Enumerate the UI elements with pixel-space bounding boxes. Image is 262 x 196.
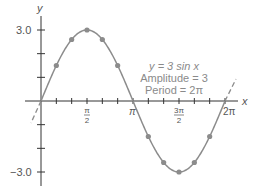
x-tick-label-pi-half: π 2 xyxy=(84,106,90,125)
annotation-box: y = 3 sin x Amplitude = 3 Period = 2π xyxy=(140,60,208,96)
data-point xyxy=(207,134,212,139)
axes xyxy=(25,16,238,186)
data-point xyxy=(100,37,105,42)
sine-chart: y x 3.0 −3.0 π 2 π 3π 2 2π y = 3 sin x A… xyxy=(0,0,262,196)
annotation-amplitude: Amplitude = 3 xyxy=(140,72,208,84)
data-point xyxy=(176,169,181,174)
y-tick-label-top: 3.0 xyxy=(16,24,31,36)
data-point xyxy=(54,63,59,68)
right-extension xyxy=(225,79,236,101)
annotation-equation: y = 3 sin x xyxy=(148,60,199,72)
x-axis-label: x xyxy=(241,95,248,107)
x-tick-label-three-pi-half: 3π 2 xyxy=(174,106,184,125)
x-tick-label-pi: π xyxy=(129,106,136,117)
data-point xyxy=(192,160,197,165)
data-point xyxy=(115,63,120,68)
left-extension xyxy=(31,101,41,123)
y-tick-label-bottom: −3.0 xyxy=(10,166,32,178)
fraction-denominator: 2 xyxy=(85,116,90,125)
data-point xyxy=(69,37,74,42)
data-point xyxy=(161,160,166,165)
y-axis-label: y xyxy=(36,2,44,14)
x-tick-label-two-pi: 2π xyxy=(223,106,236,117)
annotation-period: Period = 2π xyxy=(145,84,203,96)
fraction-denominator: 2 xyxy=(177,116,182,125)
data-point xyxy=(84,27,89,32)
data-point xyxy=(146,134,151,139)
fraction-numerator: π xyxy=(84,106,90,115)
fraction-numerator: 3π xyxy=(174,106,184,115)
